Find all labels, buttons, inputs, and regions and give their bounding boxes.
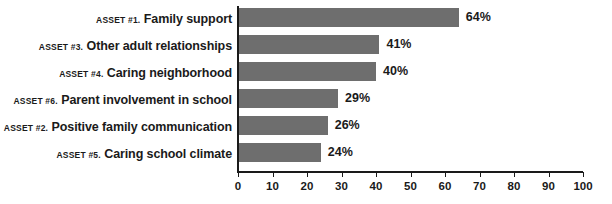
- x-axis-tick-label: 100: [563, 179, 603, 193]
- asset-tag: ASSET #2.: [4, 123, 48, 133]
- asset-tag: ASSET #1.: [96, 15, 140, 25]
- x-axis-tick: [238, 172, 239, 177]
- x-axis-tick: [411, 172, 412, 177]
- y-axis-line: [237, 6, 239, 172]
- bar-category-label: ASSET #1. Family support: [96, 8, 232, 27]
- x-axis-tick: [307, 172, 308, 177]
- bar-row: ASSET #3. Other adult relationships41%: [0, 35, 612, 54]
- bar-category-label: ASSET #4. Caring neighborhood: [59, 62, 232, 81]
- asset-name: Positive family communication: [48, 120, 232, 134]
- x-axis-tick: [480, 172, 481, 177]
- bar-row: ASSET #2. Positive family communication2…: [0, 116, 612, 135]
- bar-chart: ASSET #1. Family support64%ASSET #3. Oth…: [0, 0, 612, 204]
- asset-tag: ASSET #3.: [39, 42, 83, 52]
- x-axis-tick: [342, 172, 343, 177]
- asset-tag: ASSET #6.: [13, 96, 57, 106]
- x-axis-tick: [445, 172, 446, 177]
- bar-category-label: ASSET #5. Caring school climate: [57, 143, 233, 162]
- asset-name: Other adult relationships: [83, 39, 232, 53]
- bar-value-label: 41%: [386, 35, 411, 54]
- bar-row: ASSET #5. Caring school climate24%: [0, 143, 612, 162]
- asset-tag: ASSET #4.: [59, 69, 103, 79]
- x-axis-tick: [376, 172, 377, 177]
- bar-row: ASSET #4. Caring neighborhood40%: [0, 62, 612, 81]
- asset-tag: ASSET #5.: [57, 150, 101, 160]
- bar-category-label: ASSET #3. Other adult relationships: [39, 35, 232, 54]
- bar-row: ASSET #6. Parent involvement in school29…: [0, 89, 612, 108]
- bar-row: ASSET #1. Family support64%: [0, 8, 612, 27]
- asset-name: Parent involvement in school: [58, 93, 232, 107]
- x-axis-tick: [514, 172, 515, 177]
- asset-name: Family support: [140, 12, 232, 26]
- bar: [238, 35, 379, 54]
- x-axis-tick: [549, 172, 550, 177]
- bar: [238, 8, 459, 27]
- asset-name: Caring neighborhood: [103, 66, 232, 80]
- bar-value-label: 29%: [345, 89, 370, 108]
- bar: [238, 116, 328, 135]
- bar-value-label: 64%: [466, 8, 491, 27]
- bar-rows: ASSET #1. Family support64%ASSET #3. Oth…: [0, 0, 612, 172]
- x-axis-tick: [273, 172, 274, 177]
- bar: [238, 89, 338, 108]
- bar: [238, 62, 376, 81]
- bar-value-label: 24%: [328, 143, 353, 162]
- bar-value-label: 40%: [383, 62, 408, 81]
- asset-name: Caring school climate: [101, 147, 232, 161]
- bar-category-label: ASSET #6. Parent involvement in school: [13, 89, 232, 108]
- bar: [238, 143, 321, 162]
- bar-value-label: 26%: [335, 116, 360, 135]
- x-axis-tick: [583, 172, 584, 177]
- bar-category-label: ASSET #2. Positive family communication: [4, 116, 232, 135]
